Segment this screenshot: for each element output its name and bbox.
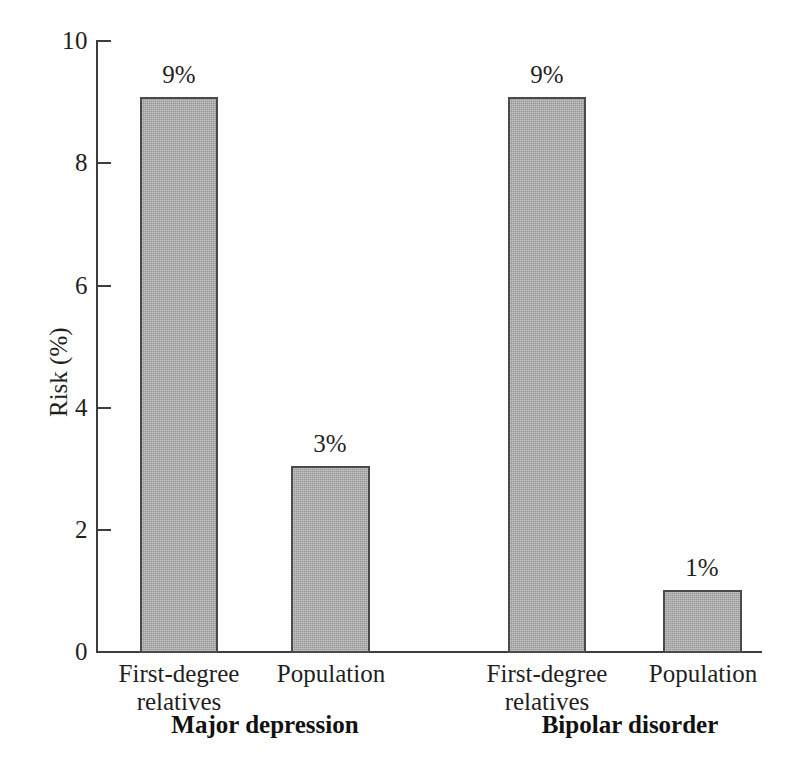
category-label-major-depression-population: Population [231, 660, 431, 688]
group-label-bipolar-disorder: Bipolar disorder [505, 712, 755, 737]
y-tick-mark-6 [98, 285, 111, 287]
y-axis-title: Risk (%) [46, 177, 71, 417]
y-tick-mark-10 [98, 40, 111, 42]
y-tick-mark-4 [98, 407, 111, 409]
category-label-line1: Population [231, 660, 431, 688]
bar-major-depression-first-degree-relatives [140, 97, 218, 653]
y-axis-line [96, 40, 98, 653]
bar-major-depression-population [291, 466, 370, 653]
bar-bipolar-disorder-population [663, 590, 742, 653]
y-tick-label-10: 10 [28, 28, 88, 53]
bar-bipolar-disorder-first-degree-relatives [508, 97, 586, 653]
bar-value-label-4: 1% [652, 555, 752, 580]
group-label-major-depression: Major depression [140, 712, 390, 737]
y-tick-mark-2 [98, 529, 111, 531]
bar-value-label-2: 3% [280, 431, 380, 456]
y-tick-mark-8 [98, 162, 111, 164]
y-tick-label-8: 8 [28, 150, 88, 175]
bar-chart-figure: 10 8 6 4 2 0 Risk (%) 9% 3% 9% 1% First-… [0, 0, 800, 771]
bar-value-label-1: 9% [129, 62, 229, 87]
y-tick-label-2: 2 [28, 517, 88, 542]
y-tick-mark-0 [98, 651, 111, 653]
bar-value-label-3: 9% [497, 62, 597, 87]
category-label-line1: Population [603, 660, 800, 688]
category-label-bipolar-disorder-population: Population [603, 660, 800, 688]
